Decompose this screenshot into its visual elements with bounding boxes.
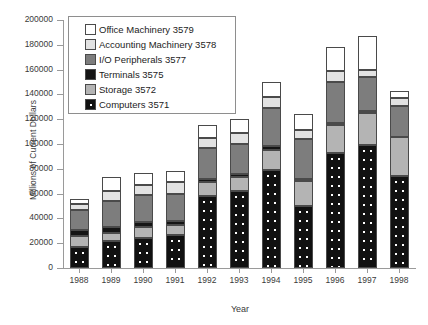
y-tick-label: 60000: [0, 188, 53, 198]
bar-segment-1993-storage-3572[interactable]: [230, 177, 249, 191]
bar-segment-1991-terminals-3575[interactable]: [166, 221, 185, 225]
legend-swatch-icon: [85, 84, 96, 95]
bar-segment-1990-i-o-peripherals-3577[interactable]: [134, 195, 153, 222]
bar-segment-1993-accounting-machinery-3578[interactable]: [230, 133, 249, 144]
bar-segment-1994-computers-3571[interactable]: [262, 170, 281, 268]
legend-item-computers-3571[interactable]: Computers 3571: [85, 97, 235, 112]
legend-label: Office Machinery 3579: [99, 24, 194, 35]
bar-segment-1995-terminals-3575[interactable]: [294, 179, 313, 181]
bar-segment-1990-storage-3572[interactable]: [134, 227, 153, 238]
bar-segment-1991-office-machinery-3579[interactable]: [166, 171, 185, 182]
legend-item-accounting-machinery-3578[interactable]: Accounting Machinery 3578: [85, 37, 235, 52]
y-tick-label: 20000: [0, 237, 53, 247]
bar-segment-1995-office-machinery-3579[interactable]: [294, 114, 313, 130]
bar-segment-1997-computers-3571[interactable]: [358, 145, 377, 268]
x-tick-mark: [207, 268, 208, 273]
y-tick-mark: [57, 268, 63, 269]
x-tick-mark: [335, 268, 336, 273]
bar-segment-1994-storage-3572[interactable]: [262, 150, 281, 170]
legend-item-office-machinery-3579[interactable]: Office Machinery 3579: [85, 22, 235, 37]
bar-segment-1991-computers-3571[interactable]: [166, 235, 185, 268]
x-tick-label-1998: 1998: [379, 275, 419, 285]
bar-segment-1995-i-o-peripherals-3577[interactable]: [294, 139, 313, 179]
bar-segment-1993-i-o-peripherals-3577[interactable]: [230, 144, 249, 174]
bar-segment-1993-terminals-3575[interactable]: [230, 174, 249, 178]
bar-segment-1992-accounting-machinery-3578[interactable]: [198, 138, 217, 148]
bar-segment-1989-i-o-peripherals-3577[interactable]: [102, 201, 121, 227]
bar-segment-1993-office-machinery-3579[interactable]: [230, 119, 249, 133]
bar-segment-1991-i-o-peripherals-3577[interactable]: [166, 194, 185, 221]
legend-label: I/O Peripherals 3577: [99, 54, 186, 65]
bar-1997[interactable]: [358, 20, 377, 268]
bar-1995[interactable]: [294, 20, 313, 268]
legend-swatch-icon: [85, 54, 96, 65]
bar-segment-1998-office-machinery-3579[interactable]: [390, 91, 409, 98]
y-tick-label: 0: [0, 262, 53, 272]
y-tick-label: 100000: [0, 138, 53, 148]
bar-segment-1995-storage-3572[interactable]: [294, 181, 313, 206]
bar-segment-1998-storage-3572[interactable]: [390, 137, 409, 177]
bar-segment-1998-computers-3571[interactable]: [390, 176, 409, 268]
bar-segment-1989-storage-3572[interactable]: [102, 233, 121, 240]
bar-segment-1992-storage-3572[interactable]: [198, 182, 217, 196]
bar-segment-1997-office-machinery-3579[interactable]: [358, 36, 377, 69]
bar-segment-1992-computers-3571[interactable]: [198, 196, 217, 268]
legend-label: Accounting Machinery 3578: [99, 39, 216, 50]
bar-segment-1990-terminals-3575[interactable]: [134, 222, 153, 227]
bar-segment-1995-accounting-machinery-3578[interactable]: [294, 130, 313, 139]
bar-segment-1998-i-o-peripherals-3577[interactable]: [390, 106, 409, 137]
bar-segment-1988-storage-3572[interactable]: [70, 236, 89, 247]
bar-segment-1994-i-o-peripherals-3577[interactable]: [262, 108, 281, 146]
bar-segment-1988-accounting-machinery-3578[interactable]: [70, 204, 89, 210]
bar-segment-1992-office-machinery-3579[interactable]: [198, 125, 217, 137]
bar-segment-1997-accounting-machinery-3578[interactable]: [358, 70, 377, 77]
bar-segment-1989-terminals-3575[interactable]: [102, 227, 121, 233]
x-tick-mark: [111, 268, 112, 273]
bar-segment-1989-computers-3571[interactable]: [102, 241, 121, 268]
bar-1994[interactable]: [262, 20, 281, 268]
bar-segment-1993-computers-3571[interactable]: [230, 191, 249, 268]
y-tick-label: 40000: [0, 212, 53, 222]
bar-segment-1992-i-o-peripherals-3577[interactable]: [198, 148, 217, 179]
bar-segment-1990-accounting-machinery-3578[interactable]: [134, 185, 153, 195]
bar-segment-1994-office-machinery-3579[interactable]: [262, 82, 281, 97]
bar-segment-1996-accounting-machinery-3578[interactable]: [326, 71, 345, 82]
bar-segment-1988-office-machinery-3579[interactable]: [70, 199, 89, 204]
y-tick-label: 200000: [0, 14, 53, 24]
legend-label: Computers 3571: [99, 99, 169, 110]
bar-segment-1989-accounting-machinery-3578[interactable]: [102, 191, 121, 201]
bar-segment-1992-terminals-3575[interactable]: [198, 179, 217, 183]
bar-segment-1988-i-o-peripherals-3577[interactable]: [70, 210, 89, 230]
bar-1996[interactable]: [326, 20, 345, 268]
legend-swatch-icon: [85, 69, 96, 80]
x-tick-mark: [175, 268, 176, 273]
x-tick-mark: [79, 268, 80, 273]
bar-segment-1997-terminals-3575[interactable]: [358, 111, 377, 113]
bar-segment-1996-i-o-peripherals-3577[interactable]: [326, 82, 345, 123]
bar-1998[interactable]: [390, 20, 409, 268]
bar-segment-1997-i-o-peripherals-3577[interactable]: [358, 77, 377, 110]
bar-segment-1996-computers-3571[interactable]: [326, 153, 345, 268]
legend-item-i-o-peripherals-3577[interactable]: I/O Peripherals 3577: [85, 52, 235, 67]
bar-segment-1991-accounting-machinery-3578[interactable]: [166, 182, 185, 193]
bar-segment-1988-terminals-3575[interactable]: [70, 230, 89, 236]
bar-segment-1994-terminals-3575[interactable]: [262, 146, 281, 150]
bar-segment-1998-accounting-machinery-3578[interactable]: [390, 98, 409, 105]
bar-segment-1995-computers-3571[interactable]: [294, 206, 313, 268]
bar-segment-1996-terminals-3575[interactable]: [326, 123, 345, 125]
y-tick-label: 180000: [0, 39, 53, 49]
bar-segment-1991-storage-3572[interactable]: [166, 225, 185, 235]
legend-item-terminals-3575[interactable]: Terminals 3575: [85, 67, 235, 82]
bar-segment-1996-office-machinery-3579[interactable]: [326, 47, 345, 71]
bar-segment-1990-computers-3571[interactable]: [134, 238, 153, 268]
chart-legend: Office Machinery 3579Accounting Machiner…: [68, 16, 236, 114]
legend-swatch-icon: [85, 39, 96, 50]
bar-segment-1989-office-machinery-3579[interactable]: [102, 177, 121, 191]
bar-segment-1990-office-machinery-3579[interactable]: [134, 173, 153, 185]
bar-segment-1994-accounting-machinery-3578[interactable]: [262, 97, 281, 108]
legend-item-storage-3572[interactable]: Storage 3572: [85, 82, 235, 97]
legend-swatch-icon: [85, 99, 96, 110]
bar-segment-1988-computers-3571[interactable]: [70, 247, 89, 268]
bar-segment-1996-storage-3572[interactable]: [326, 125, 345, 152]
bar-segment-1997-storage-3572[interactable]: [358, 113, 377, 145]
